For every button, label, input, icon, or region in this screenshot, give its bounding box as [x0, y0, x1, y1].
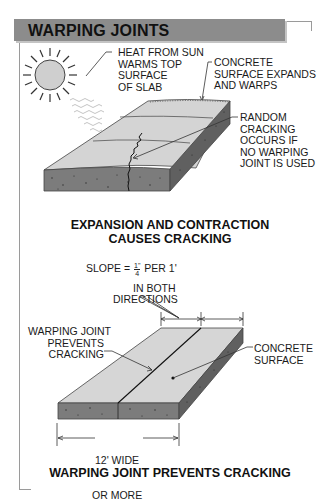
caption-line-1: EXPANSION AND CONTRACTION: [40, 219, 300, 233]
fraction-numerator: 1": [134, 262, 140, 270]
heat-wave-icon: [70, 99, 104, 132]
sun-icon: [23, 48, 77, 102]
caption-warping-joint: WARPING JOINT PREVENTS CRACKING: [30, 467, 310, 481]
width-line-2: OR MORE: [92, 490, 142, 500]
caption-expansion: EXPANSION AND CONTRACTION CAUSES CRACKIN…: [40, 219, 300, 246]
label-concrete-surface: CONCRETE SURFACE: [254, 343, 313, 366]
caption-line-2: CAUSES CRACKING: [40, 233, 300, 247]
width-line-1: 12' WIDE: [92, 455, 142, 467]
label-directions: DIRECTIONS: [113, 294, 178, 306]
label-heat-from-sun: HEAT FROM SUN WARMS TOP SURFACE OF SLAB: [118, 47, 204, 93]
label-warping-joint: WARPING JOINT PREVENTS CRACKING: [28, 326, 104, 361]
warped-slab: [44, 100, 230, 192]
label-slope: SLOPE = 1"4 PER 1': [86, 262, 177, 277]
label-random-cracking: RANDOM CRACKING OCCURS IF NO WARPING JOI…: [240, 112, 315, 170]
slope-fraction: 1"4: [134, 262, 140, 277]
slope-suffix: PER 1': [141, 262, 176, 274]
slope-prefix: SLOPE =: [86, 262, 133, 274]
label-surface-expands: CONCRETE SURFACE EXPANDS AND WARPS: [214, 57, 316, 92]
fraction-denominator: 4: [134, 270, 140, 277]
heat-leader-line: [86, 52, 112, 76]
